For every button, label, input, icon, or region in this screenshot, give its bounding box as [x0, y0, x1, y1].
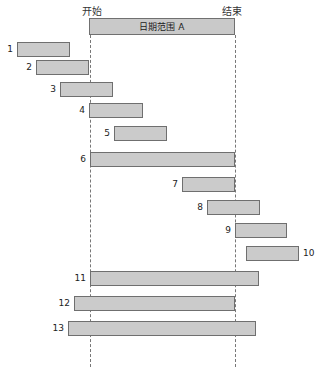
bar-11: [90, 271, 259, 286]
bar-12: [74, 296, 235, 311]
bar-number: 11: [66, 273, 86, 283]
end-label: 结束: [222, 3, 242, 18]
bar-number: 6: [66, 154, 86, 164]
bar-number: 5: [90, 128, 110, 138]
bar-7: [182, 177, 235, 192]
bar-number: 13: [44, 323, 64, 333]
bar-4: [89, 103, 143, 118]
bar-number: 7: [158, 179, 178, 189]
bar-number: 2: [12, 62, 32, 72]
bar-2: [36, 60, 89, 75]
bar-5: [114, 126, 167, 141]
bar-number: 1: [0, 44, 13, 54]
bar-13: [68, 321, 256, 336]
date-range-a-bar: 日期范围 A: [89, 18, 235, 35]
bar-3: [60, 82, 113, 97]
bar-number: 10: [303, 248, 314, 258]
bar-10: [246, 246, 299, 261]
bar-6: [90, 152, 235, 167]
bar-number: 8: [183, 202, 203, 212]
bar-1: [17, 42, 70, 57]
bar-number: 3: [36, 84, 56, 94]
bar-number: 4: [65, 105, 85, 115]
start-label: 开始: [82, 3, 102, 18]
bar-number: 9: [211, 225, 231, 235]
bar-9: [235, 223, 287, 238]
bar-number: 12: [50, 298, 70, 308]
bar-8: [207, 200, 260, 215]
